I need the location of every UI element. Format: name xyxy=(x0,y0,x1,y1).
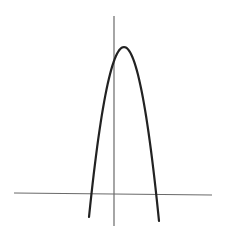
parabola-diagram xyxy=(0,0,235,229)
